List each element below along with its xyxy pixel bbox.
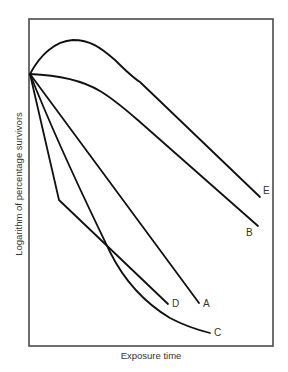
x-axis-label: Exposure time [121,350,182,361]
survivor-curves-chart: E B D A C Exposure time Logarithm of per… [0,0,288,372]
curve-d [30,74,168,304]
curve-a [30,74,199,303]
curve-label-b: B [246,227,253,238]
y-axis-label: Logarithm of percentage survivors [13,112,24,256]
curve-label-c: C [214,327,221,338]
curve-label-a: A [203,298,210,309]
curve-label-d: D [172,298,179,309]
curve-b [30,74,258,226]
curve-e [30,40,260,197]
curve-label-e: E [263,185,270,196]
curve-c [30,74,210,333]
plot-frame [29,19,273,346]
